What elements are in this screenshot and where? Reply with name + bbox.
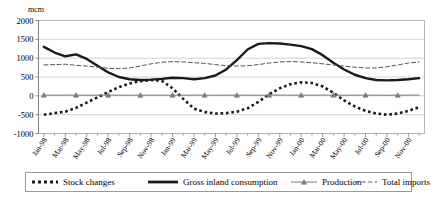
x-tick-label: Nov-99 bbox=[264, 136, 285, 160]
chart-container: mcm 2000150010005000-500-1000 Jan-98Mar-… bbox=[0, 0, 437, 200]
series-gross-inland-consumption bbox=[44, 43, 419, 80]
x-tick-label: Jan-00 bbox=[287, 136, 306, 158]
x-tick-label: Sep-99 bbox=[244, 136, 264, 159]
x-tick-label: Sep-98 bbox=[115, 136, 135, 159]
y-tick-label: -500 bbox=[18, 110, 34, 120]
x-tick-label: Jul-98 bbox=[95, 136, 113, 157]
legend-label: Gross inland consumption bbox=[183, 177, 278, 187]
y-tick-label: 0 bbox=[29, 91, 33, 101]
series-line bbox=[44, 43, 419, 80]
y-tick-label: 2000 bbox=[17, 16, 34, 26]
data-series-group bbox=[41, 43, 419, 115]
x-tick-label: Nov-00 bbox=[393, 136, 414, 160]
y-tick-label: 1000 bbox=[17, 53, 34, 63]
y-tick-label: -1000 bbox=[14, 129, 34, 139]
x-tick-label: Mar-98 bbox=[50, 136, 70, 160]
x-tick-label: Jan-99 bbox=[159, 136, 178, 158]
x-tick-label: May-99 bbox=[199, 136, 220, 161]
x-tick-label: Mar-99 bbox=[179, 136, 199, 160]
x-tick-label: Sep-00 bbox=[372, 136, 392, 159]
series-production bbox=[41, 92, 419, 97]
y-tick-label: 500 bbox=[21, 72, 34, 82]
x-tick-label: Mar-00 bbox=[307, 136, 327, 160]
line-chart: mcm 2000150010005000-500-1000 Jan-98Mar-… bbox=[0, 0, 437, 200]
x-tick-label: Jul-00 bbox=[352, 136, 370, 157]
x-tick-label: May-98 bbox=[71, 136, 92, 161]
x-tick-label: Nov-98 bbox=[136, 136, 157, 160]
legend-label: Total imports bbox=[382, 177, 431, 187]
y-tick-label: 1500 bbox=[17, 34, 34, 44]
y-axis-unit-label: mcm bbox=[28, 5, 45, 14]
x-tick-label: Jul-99 bbox=[224, 136, 242, 157]
x-tick-label: Jan-98 bbox=[30, 136, 49, 158]
y-gridlines bbox=[39, 39, 425, 114]
x-axis-labels: Jan-98Mar-98May-98Jul-98Sep-98Nov-98Jan-… bbox=[30, 136, 414, 161]
legend-label: Stock changes bbox=[63, 177, 115, 187]
y-axis-ticks: 2000150010005000-500-1000 bbox=[14, 16, 39, 139]
x-tick-label: May-00 bbox=[328, 136, 349, 161]
